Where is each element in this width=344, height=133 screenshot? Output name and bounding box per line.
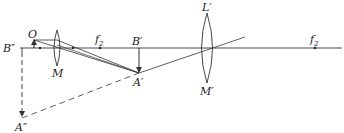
label-object-o: O (28, 28, 37, 41)
optical-diagram: O M f2 B′ A′ L′ M′ f2 B″ A″ (0, 0, 344, 133)
label-b-prime: B′ (131, 35, 143, 48)
label-f2-left-sub: 2 (98, 40, 104, 48)
label-m-prime: M′ (199, 85, 214, 98)
label-b-double-prime: B″ (2, 42, 16, 55)
label-f2-right: f2 (309, 33, 319, 48)
focal-point-dot (39, 47, 41, 49)
ray-third (57, 45, 139, 73)
label-a-double-prime: A″ (14, 121, 28, 133)
ray-through-eyepiece (139, 37, 245, 73)
virtual-ray-dashed (22, 73, 139, 118)
ray-central (34, 40, 139, 73)
label-f2-left: f2 (94, 33, 104, 48)
label-l-prime: L′ (201, 1, 212, 14)
label-a-prime: A′ (132, 76, 144, 89)
label-lens-m: M (51, 67, 64, 80)
label-f2-right-sub: 2 (313, 40, 319, 48)
